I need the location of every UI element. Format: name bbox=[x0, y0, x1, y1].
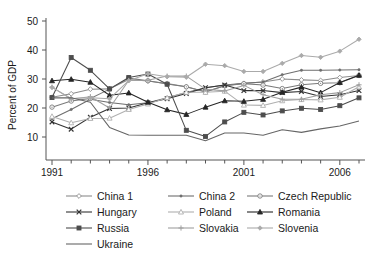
line-chart: 1020304050 1991199620012006 China 1China… bbox=[0, 0, 384, 262]
y-axis-title: Percent of GDP bbox=[7, 60, 18, 130]
legend-label: Slovenia bbox=[278, 222, 318, 234]
data-point-filled-square bbox=[299, 106, 303, 110]
data-point-open-circle bbox=[184, 85, 188, 89]
legend-marker-filled-square bbox=[77, 226, 81, 230]
legend-label: Czech Republic bbox=[278, 190, 352, 202]
legend-label: Slovakia bbox=[199, 222, 239, 234]
legend-label: Hungary bbox=[97, 206, 137, 218]
data-point-filled-square bbox=[69, 56, 73, 60]
data-point-open-circle bbox=[50, 105, 54, 109]
legend-marker-open-circle bbox=[258, 194, 262, 198]
legend-label: Poland bbox=[199, 206, 232, 218]
data-point-filled-square bbox=[338, 104, 342, 108]
y-axis-tick-label: 30 bbox=[27, 74, 39, 85]
x-axis-tick-label: 1991 bbox=[41, 167, 64, 178]
x-axis-tick-label: 1996 bbox=[137, 167, 160, 178]
data-point-dot bbox=[70, 108, 72, 110]
data-point-dot bbox=[300, 69, 302, 71]
x-axis-tick-label: 2001 bbox=[233, 167, 256, 178]
data-point-dot bbox=[128, 104, 130, 106]
data-point-filled-square bbox=[261, 113, 265, 117]
data-point-open-circle bbox=[318, 81, 322, 85]
data-point-filled-square bbox=[165, 82, 169, 86]
data-point-dot bbox=[358, 69, 360, 71]
data-point-filled-square bbox=[280, 109, 284, 113]
data-point-filled-square bbox=[242, 110, 246, 114]
chart-container: 1020304050 1991199620012006 China 1China… bbox=[0, 0, 384, 262]
data-point-filled-square bbox=[357, 96, 361, 100]
data-point-dot bbox=[339, 69, 341, 71]
y-axis-tick-label: 20 bbox=[27, 103, 39, 114]
data-point-open-circle bbox=[261, 83, 265, 87]
x-axis-tick-label: 2006 bbox=[329, 167, 352, 178]
data-point-dot bbox=[108, 101, 110, 103]
y-axis-tick-label: 40 bbox=[27, 45, 39, 56]
chart-background bbox=[0, 0, 384, 262]
data-point-filled-square bbox=[88, 68, 92, 72]
data-point-filled-square bbox=[204, 134, 208, 138]
data-point-filled-square bbox=[319, 107, 323, 111]
legend-label: China 2 bbox=[199, 190, 235, 202]
data-point-dot bbox=[319, 69, 321, 71]
legend-label: China 1 bbox=[97, 190, 133, 202]
data-point-filled-square bbox=[184, 128, 188, 132]
legend-label: Russia bbox=[97, 222, 129, 234]
y-axis-tick-label: 50 bbox=[27, 16, 39, 27]
legend-label: Romania bbox=[278, 206, 320, 218]
data-point-filled-square bbox=[223, 120, 227, 124]
y-axis-tick-label: 10 bbox=[27, 132, 39, 143]
legend-label: Ukraine bbox=[97, 238, 133, 250]
legend-marker-dot bbox=[180, 195, 182, 197]
data-point-filled-square bbox=[108, 87, 112, 91]
data-point-dot bbox=[281, 73, 283, 75]
